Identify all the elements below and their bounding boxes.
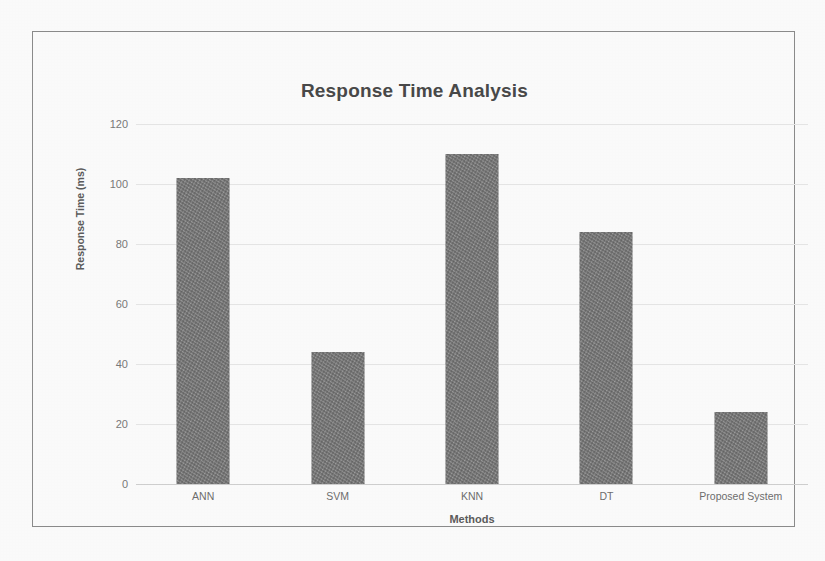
bar-slot bbox=[405, 124, 539, 484]
x-axis-tick-label: KNN bbox=[405, 490, 539, 502]
bar-slot bbox=[539, 124, 673, 484]
bar-slot bbox=[270, 124, 404, 484]
bar-slot bbox=[136, 124, 270, 484]
x-axis-title: Methods bbox=[136, 513, 808, 525]
chart-title: Response Time Analysis bbox=[33, 80, 796, 102]
x-axis-tick-label: DT bbox=[539, 490, 673, 502]
bar-svm bbox=[311, 352, 364, 484]
bar-ann bbox=[177, 178, 230, 484]
plot-area bbox=[136, 124, 808, 484]
x-axis-tick-label: Proposed System bbox=[674, 490, 808, 502]
y-axis-tick-label: 20 bbox=[94, 418, 128, 430]
x-axis-tick-label: ANN bbox=[136, 490, 270, 502]
bar-slot bbox=[674, 124, 808, 484]
figure-border-box: Response Time Analysis Response Time (ms… bbox=[32, 31, 795, 527]
y-axis-tick-label: 120 bbox=[94, 118, 128, 130]
x-axis-tick-labels: ANNSVMKNNDTProposed System bbox=[136, 490, 808, 508]
figure-root: Response Time Analysis Response Time (ms… bbox=[0, 0, 825, 561]
y-axis-tick-labels: 020406080100120 bbox=[90, 124, 128, 484]
bar-proposed-system bbox=[714, 412, 767, 484]
y-axis-tick-label: 100 bbox=[94, 178, 128, 190]
y-axis-tick-label: 40 bbox=[94, 358, 128, 370]
y-axis-tick-label: 80 bbox=[94, 238, 128, 250]
x-axis-line bbox=[136, 484, 808, 485]
bar-dt bbox=[580, 232, 633, 484]
x-axis-tick-label: SVM bbox=[270, 490, 404, 502]
y-axis-tick-label: 0 bbox=[94, 478, 128, 490]
y-axis-tick-label: 60 bbox=[94, 298, 128, 310]
y-axis-title: Response Time (ms) bbox=[74, 129, 86, 309]
bar-knn bbox=[445, 154, 498, 484]
